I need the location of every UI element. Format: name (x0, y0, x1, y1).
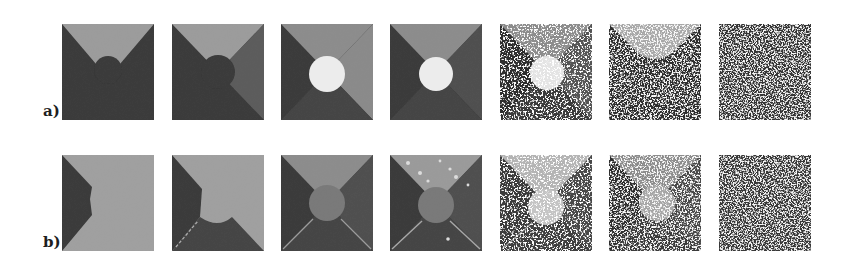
panel-b-4 (390, 155, 482, 251)
panel-a-2 (172, 24, 264, 120)
panel-a-3 (281, 24, 373, 120)
panel-b-5 (500, 155, 592, 251)
panel-b-6 (609, 155, 701, 251)
panel-a-6 (609, 24, 701, 120)
panel-a-5 (500, 24, 592, 120)
panel-b-7 (719, 155, 811, 251)
panel-b-3 (281, 155, 373, 251)
panel-a-1 (62, 24, 154, 120)
panel-b-2 (172, 155, 264, 251)
panel-a-7 (719, 24, 811, 120)
panel-a-4 (390, 24, 482, 120)
panel-b-1 (62, 155, 154, 251)
row-label-b: b) (43, 235, 61, 250)
row-label-a: a) (43, 104, 60, 119)
